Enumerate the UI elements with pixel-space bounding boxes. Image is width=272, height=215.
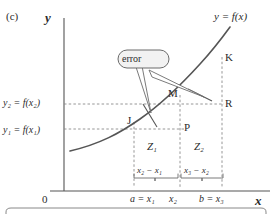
callout-tail-left bbox=[136, 66, 151, 113]
y-axis-label: y bbox=[45, 11, 51, 24]
curve-equation-label: y = f(x) bbox=[214, 11, 247, 22]
y-tick-label-y2: y₂ = f(x₂) bbox=[3, 98, 40, 108]
function-curve bbox=[70, 27, 230, 151]
region-label-z1: Z₁ bbox=[147, 141, 157, 152]
point-label-k: K bbox=[225, 52, 233, 63]
region-label-z2: Z₂ bbox=[194, 141, 204, 152]
point-label-m: M bbox=[168, 88, 178, 99]
point-label-p: P bbox=[184, 122, 190, 133]
point-label-r: R bbox=[225, 98, 232, 109]
region-width-label-z1: x₂ − x₁ bbox=[137, 166, 162, 175]
error-callout-label: error bbox=[122, 54, 141, 64]
region-width-label-z2: x₃ − x₂ bbox=[184, 166, 209, 175]
panel-label: (c) bbox=[6, 11, 18, 22]
point-label-j: J bbox=[127, 115, 131, 126]
caption-frame-top bbox=[6, 208, 266, 214]
x-axis-label: x bbox=[255, 194, 262, 207]
y-tick-label-y1: y₁ = f(x₁) bbox=[3, 125, 40, 135]
x-tick-label-x2: x₂ bbox=[169, 194, 177, 204]
x-tick-label-b: b = x₃ bbox=[199, 194, 224, 204]
origin-label: 0 bbox=[42, 194, 48, 205]
figure-panel-c: (c) y x y = f(x) y₂ = f(x₂) y₁ = f(x₁) 0… bbox=[0, 0, 272, 215]
x-tick-label-a: a = x₁ bbox=[130, 194, 155, 204]
brace-z2 bbox=[181, 174, 223, 181]
brace-z1 bbox=[134, 174, 178, 181]
